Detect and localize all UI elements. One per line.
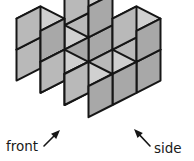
isometric-cube-figure: front side	[0, 0, 194, 161]
front-label: front	[6, 138, 38, 154]
figure-canvas: front side	[0, 0, 194, 161]
side-label: side	[154, 140, 182, 156]
